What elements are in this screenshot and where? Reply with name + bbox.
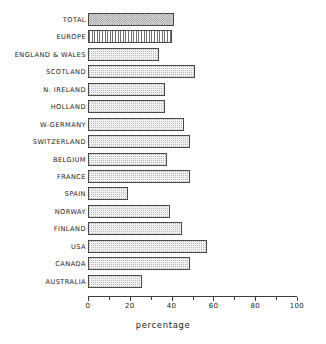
bar bbox=[88, 30, 172, 43]
x-axis-minor-tick bbox=[234, 297, 235, 300]
bar-category-label: CANADA bbox=[55, 260, 86, 268]
bar-row: EUROPE bbox=[0, 29, 326, 45]
x-axis-tick-label: 40 bbox=[167, 302, 177, 310]
x-axis-tick-label: 20 bbox=[125, 302, 135, 310]
x-axis-tick-label: 80 bbox=[250, 302, 260, 310]
bar bbox=[88, 48, 159, 61]
bar-track bbox=[88, 257, 297, 270]
bar-track bbox=[88, 13, 297, 26]
bar bbox=[88, 118, 184, 131]
bar bbox=[88, 222, 182, 235]
bar bbox=[88, 135, 190, 148]
bar-category-label: SPAIN bbox=[65, 190, 86, 198]
x-axis-major-tick bbox=[130, 297, 131, 301]
bar-track bbox=[88, 240, 297, 253]
bar-row: FINLAND bbox=[0, 221, 326, 237]
bar-row: W-GERMANY bbox=[0, 117, 326, 133]
bar bbox=[88, 65, 195, 78]
x-axis-major-tick bbox=[88, 297, 89, 301]
bar-track bbox=[88, 205, 297, 218]
bar-category-label: TOTAL bbox=[63, 16, 86, 24]
bar bbox=[88, 257, 190, 270]
bar-row: SWITZERLAND bbox=[0, 134, 326, 150]
bar bbox=[88, 205, 170, 218]
bar-row: HOLLAND bbox=[0, 99, 326, 115]
bar bbox=[88, 170, 190, 183]
bar-row: BELGIUM bbox=[0, 152, 326, 168]
bar-category-label: ENGLAND & WALES bbox=[15, 51, 86, 59]
bar-track bbox=[88, 65, 297, 78]
bar bbox=[88, 83, 165, 96]
bar-category-label: EUROPE bbox=[56, 33, 86, 41]
bar-category-label: FRANCE bbox=[57, 173, 86, 181]
bar-category-label: USA bbox=[71, 243, 86, 251]
x-axis-major-tick bbox=[172, 297, 173, 301]
bar-track bbox=[88, 100, 297, 113]
plot-area: TOTALEUROPEENGLAND & WALESSCOTLANDN. IRE… bbox=[0, 0, 326, 344]
x-axis-minor-tick bbox=[109, 297, 110, 300]
x-axis-tick-label: 0 bbox=[86, 302, 91, 310]
bar-category-label: N. IRELAND bbox=[43, 86, 86, 94]
bar-category-label: AUSTRALIA bbox=[45, 278, 86, 286]
bar-row: USA bbox=[0, 239, 326, 255]
bar-chart: TOTALEUROPEENGLAND & WALESSCOTLANDN. IRE… bbox=[0, 0, 326, 344]
bar-track bbox=[88, 222, 297, 235]
bar-category-label: NORWAY bbox=[55, 208, 86, 216]
x-axis-minor-tick bbox=[276, 297, 277, 300]
bar-category-label: W-GERMANY bbox=[40, 121, 86, 129]
bar-row: N. IRELAND bbox=[0, 82, 326, 98]
bar-row: SCOTLAND bbox=[0, 64, 326, 80]
bar-row: FRANCE bbox=[0, 169, 326, 185]
bar-row: CANADA bbox=[0, 256, 326, 272]
bar-category-label: HOLLAND bbox=[51, 103, 86, 111]
x-axis-minor-tick bbox=[151, 297, 152, 300]
bar-rows: TOTALEUROPEENGLAND & WALESSCOTLANDN. IRE… bbox=[0, 12, 326, 291]
bar-track bbox=[88, 187, 297, 200]
bar-category-label: FINLAND bbox=[54, 225, 86, 233]
x-axis-tick-label: 100 bbox=[290, 302, 304, 310]
bar-track bbox=[88, 275, 297, 288]
bar bbox=[88, 187, 128, 200]
bar-category-label: BELGIUM bbox=[53, 156, 86, 164]
bar bbox=[88, 100, 165, 113]
bar bbox=[88, 13, 174, 26]
x-axis-tick-label: 60 bbox=[209, 302, 219, 310]
bar-row: SPAIN bbox=[0, 186, 326, 202]
bar-row: AUSTRALIA bbox=[0, 274, 326, 290]
bar-track bbox=[88, 135, 297, 148]
bar-category-label: SCOTLAND bbox=[46, 68, 86, 76]
bar bbox=[88, 153, 167, 166]
bar bbox=[88, 275, 142, 288]
x-axis-title: percentage bbox=[0, 320, 326, 330]
bar-row: TOTAL bbox=[0, 12, 326, 28]
bar-row: NORWAY bbox=[0, 204, 326, 220]
bar-track bbox=[88, 83, 297, 96]
bar-track bbox=[88, 30, 297, 43]
x-axis-major-tick bbox=[297, 297, 298, 301]
x-axis-major-tick bbox=[255, 297, 256, 301]
x-axis-major-tick bbox=[213, 297, 214, 301]
bar-category-label: SWITZERLAND bbox=[33, 138, 86, 146]
bar bbox=[88, 240, 207, 253]
bar-track bbox=[88, 170, 297, 183]
x-axis-minor-tick bbox=[193, 297, 194, 300]
bar-row: ENGLAND & WALES bbox=[0, 47, 326, 63]
bar-track bbox=[88, 48, 297, 61]
bar-track bbox=[88, 118, 297, 131]
bar-track bbox=[88, 153, 297, 166]
